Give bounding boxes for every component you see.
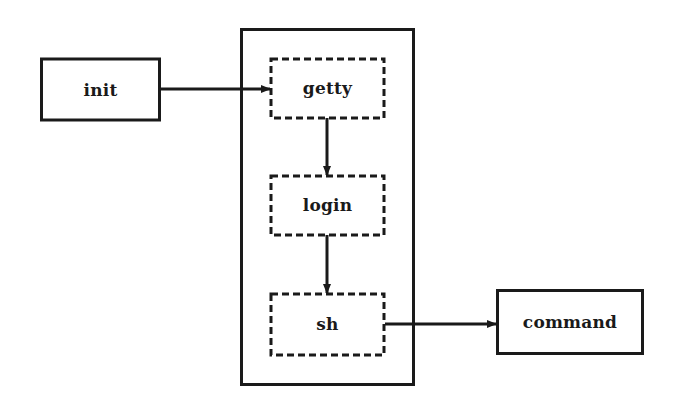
node-getty: getty bbox=[271, 59, 384, 118]
node-login-label: login bbox=[303, 197, 353, 214]
diagram-canvas: init getty login sh command bbox=[0, 0, 677, 407]
node-login: login bbox=[271, 176, 384, 235]
node-init: init bbox=[41, 59, 160, 121]
node-getty-label: getty bbox=[303, 80, 352, 97]
node-command-label: command bbox=[523, 314, 617, 331]
node-command: command bbox=[497, 290, 643, 354]
node-sh-label: sh bbox=[316, 316, 338, 333]
node-sh: sh bbox=[271, 294, 384, 355]
node-init-label: init bbox=[84, 82, 118, 99]
